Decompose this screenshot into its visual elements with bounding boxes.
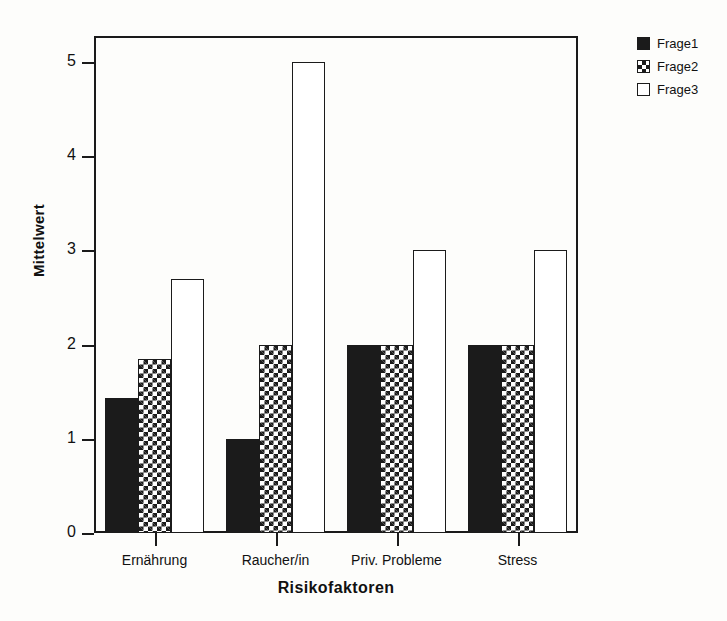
y-axis-tick-label: 4 bbox=[0, 147, 76, 163]
x-axis-tick-label: Stress bbox=[438, 552, 598, 568]
bar bbox=[171, 279, 204, 533]
y-axis-tick-label: 0 bbox=[0, 524, 76, 540]
bar bbox=[292, 62, 325, 533]
y-axis-tick bbox=[82, 533, 94, 535]
bar bbox=[105, 398, 138, 533]
legend-item: Frage1 bbox=[637, 33, 698, 54]
x-axis-tick bbox=[155, 533, 157, 546]
y-axis-tick bbox=[82, 156, 94, 158]
bar bbox=[259, 345, 292, 533]
y-axis-title: Mittelwert bbox=[30, 171, 47, 311]
bar bbox=[226, 439, 259, 533]
bars-layer bbox=[94, 36, 578, 533]
bar-chart: 012345 Mittelwert ErnährungRaucher/inPri… bbox=[0, 0, 727, 621]
legend-label: Frage3 bbox=[657, 82, 698, 97]
y-axis-tick-label: 5 bbox=[0, 53, 76, 69]
bar bbox=[468, 345, 501, 533]
x-axis-title: Risikofaktoren bbox=[94, 579, 578, 597]
legend-item: Frage2 bbox=[637, 56, 698, 77]
bar bbox=[380, 345, 413, 533]
bar bbox=[347, 345, 380, 533]
bar-group bbox=[105, 36, 204, 533]
legend-label: Frage2 bbox=[657, 59, 698, 74]
x-axis-tick bbox=[518, 533, 520, 546]
legend-swatch-icon bbox=[637, 60, 650, 73]
legend-swatch-icon bbox=[637, 37, 650, 50]
legend: Frage1Frage2Frage3 bbox=[637, 33, 698, 102]
y-axis-tick bbox=[82, 439, 94, 441]
legend-swatch-icon bbox=[637, 83, 650, 96]
bar bbox=[413, 250, 446, 533]
legend-item: Frage3 bbox=[637, 79, 698, 100]
bar bbox=[501, 345, 534, 533]
y-axis-tick bbox=[82, 250, 94, 252]
bar bbox=[138, 359, 171, 533]
y-axis-tick-label: 2 bbox=[0, 336, 76, 352]
x-axis-tick bbox=[397, 533, 399, 546]
bar bbox=[534, 250, 567, 533]
y-axis-tick bbox=[82, 345, 94, 347]
y-axis-tick-label: 1 bbox=[0, 430, 76, 446]
x-axis-tick bbox=[276, 533, 278, 546]
bar-group bbox=[468, 36, 567, 533]
bar-group bbox=[226, 36, 325, 533]
y-axis-tick bbox=[82, 62, 94, 64]
bar-group bbox=[347, 36, 446, 533]
legend-label: Frage1 bbox=[657, 36, 698, 51]
